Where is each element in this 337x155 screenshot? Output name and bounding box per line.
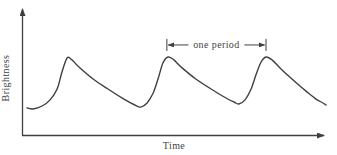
period-label: one period (193, 39, 240, 50)
light-curve-svg: one period Brightness Time (0, 0, 337, 155)
x-axis-label: Time (163, 140, 186, 151)
period-annotation: one period (167, 39, 266, 51)
brightness-curve (27, 57, 326, 109)
light-curve-figure: one period Brightness Time (0, 0, 337, 155)
y-axis-label: Brightness (0, 55, 11, 102)
